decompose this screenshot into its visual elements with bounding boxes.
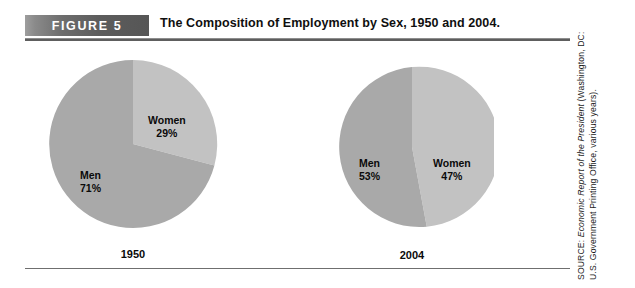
source-note-line-2: U.S. Government Printing Office, various… — [588, 89, 598, 280]
figure-number-badge: FIGURE 5 — [25, 15, 149, 36]
charts-area: Women 29% Men 71% 1950 Women 47% M — [0, 42, 580, 268]
figure-number-label: FIGURE 5 — [52, 19, 122, 33]
source-note-line-1: SOURCE: Economic Report of the President… — [576, 32, 586, 280]
figure-panel: FIGURE 5 The Composition of Employment b… — [0, 0, 635, 288]
header-divider — [25, 38, 570, 41]
source-note: SOURCE: Economic Report of the President… — [576, 0, 635, 288]
pie-chart-2004-graphic — [330, 65, 494, 229]
source-publisher-location: (Washington, DC: — [576, 32, 586, 104]
bottom-divider — [25, 268, 570, 269]
pie-chart-1950-graphic — [47, 58, 219, 230]
pie-slice-2004-women — [412, 67, 494, 227]
pie-chart-2004: Women 47% Men 53% 2004 — [330, 65, 510, 271]
figure-title: The Composition of Employment by Sex, 19… — [160, 16, 500, 30]
pie-year-label-2004: 2004 — [388, 249, 436, 261]
figure-header: FIGURE 5 The Composition of Employment b… — [0, 0, 635, 42]
pie-year-label-1950: 1950 — [109, 248, 157, 260]
pie-chart-1950: Women 29% Men 71% 1950 — [47, 58, 227, 268]
source-publication-title: Economic Report of the President — [576, 104, 586, 237]
source-prefix: SOURCE: — [576, 237, 586, 280]
